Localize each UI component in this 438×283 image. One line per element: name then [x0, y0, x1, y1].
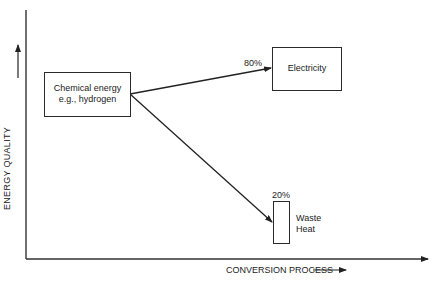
node-electricity-label: Electricity [272, 63, 342, 74]
node-waste-heat-line2: Heat [296, 224, 321, 235]
node-waste-heat-line1: Waste [296, 213, 321, 224]
node-chemical-energy-line1: Chemical energy [44, 83, 131, 94]
y-axis-label: ENERGY QUALITY [2, 127, 12, 210]
node-waste-heat [273, 201, 290, 244]
edge-to-electricity [130, 68, 271, 94]
node-waste-heat-label: Waste Heat [296, 213, 321, 235]
edge-electricity-percent: 80% [244, 58, 262, 68]
node-chemical-energy-line2: e.g., hydrogen [44, 94, 131, 105]
diagram-canvas [0, 0, 438, 283]
x-axis-label: CONVERSION PROCESS [226, 265, 333, 275]
edge-to-waste [130, 94, 272, 222]
node-chemical-energy-label: Chemical energy e.g., hydrogen [44, 83, 131, 105]
edge-waste-percent: 20% [272, 190, 290, 200]
